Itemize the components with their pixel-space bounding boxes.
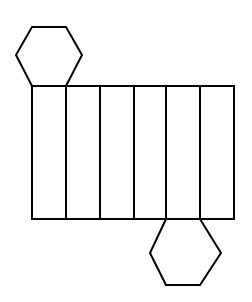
top-hexagon-face	[16, 27, 82, 86]
lateral-face-6	[200, 86, 234, 219]
bottom-hexagon-face	[150, 219, 221, 285]
lateral-face-4	[134, 86, 166, 219]
lateral-faces-band	[32, 86, 234, 219]
figure-canvas: Net of a hexagonal prism Line drawing of…	[0, 0, 252, 302]
lateral-face-5	[166, 86, 200, 219]
lateral-face-1	[32, 86, 66, 219]
lateral-face-3	[100, 86, 134, 219]
hexagonal-prism-net-diagram: Net of a hexagonal prism Line drawing of…	[0, 0, 252, 302]
lateral-face-2	[66, 86, 100, 219]
